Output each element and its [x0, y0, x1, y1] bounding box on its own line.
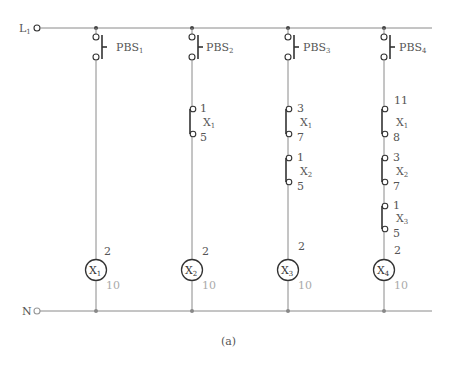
- pushbutton-pbs2: PBS2: [189, 34, 234, 60]
- coil-x3: X3: [278, 260, 299, 281]
- coil-x1: X1: [86, 260, 107, 281]
- svg-text:1: 1: [393, 199, 400, 212]
- rung-1: PBS1 2 X1 10: [86, 26, 144, 313]
- rung-2: PBS2 1 X1 5 2 X2 10: [182, 26, 234, 313]
- pushbutton-pbs4: PBS4: [381, 34, 427, 60]
- rung-3: PBS3 3 X1 7 1 X2 5 2 X3 10: [278, 26, 331, 313]
- svg-text:X1: X1: [396, 116, 408, 130]
- coil-x4: X4: [374, 260, 395, 281]
- top-rail-label: L1: [19, 22, 31, 36]
- svg-text:7: 7: [393, 180, 400, 193]
- svg-text:5: 5: [200, 131, 207, 144]
- svg-text:2: 2: [298, 240, 305, 253]
- svg-text:5: 5: [393, 227, 400, 240]
- top-rail: L1: [19, 22, 432, 36]
- contact-x1-rung4: X1 8: [382, 106, 408, 144]
- svg-text:X2: X2: [300, 165, 312, 179]
- contact-x2-rung4: 3 X2 7: [382, 151, 408, 193]
- rung-4: PBS4 11 X1 8 3 X2 7 1 X3 5: [374, 26, 428, 313]
- svg-text:10: 10: [202, 279, 216, 292]
- bottom-rail-terminal-icon: [34, 308, 40, 314]
- svg-text:X3: X3: [396, 212, 408, 226]
- svg-text:8: 8: [393, 131, 400, 144]
- svg-text:3: 3: [297, 102, 304, 115]
- pushbutton-label: PBS1: [116, 41, 144, 55]
- svg-text:X2: X2: [396, 165, 408, 179]
- svg-text:X1: X1: [203, 116, 215, 130]
- svg-text:PBS4: PBS4: [399, 41, 427, 55]
- pushbutton-pbs1: PBS1: [93, 34, 144, 60]
- contact-x1-rung2: 1 X1 5: [190, 102, 215, 144]
- contact-x1-rung3: 3 X1 7: [286, 102, 312, 144]
- svg-text:2: 2: [202, 245, 209, 258]
- bottom-rail-label: N: [22, 305, 32, 318]
- bottom-rail: N: [22, 305, 432, 318]
- figure-caption: (a): [221, 335, 236, 348]
- svg-text:PBS2: PBS2: [206, 41, 234, 55]
- contact-x3-rung4: 1 X3 5: [382, 199, 408, 240]
- svg-text:3: 3: [393, 151, 400, 164]
- contact-x2-rung3: 1 X2 5: [286, 151, 312, 193]
- svg-text:5: 5: [297, 180, 304, 193]
- coil-x2: X2: [182, 260, 203, 281]
- coil-bottom-terminal: 10: [106, 279, 120, 292]
- svg-text:1: 1: [297, 151, 304, 164]
- svg-text:2: 2: [394, 244, 401, 257]
- svg-text:10: 10: [394, 279, 408, 292]
- pushbutton-pbs3: PBS3: [285, 34, 331, 60]
- svg-text:10: 10: [298, 279, 312, 292]
- ladder-diagram: L1 N PBS1 2 X1 10: [0, 0, 453, 368]
- svg-text:PBS3: PBS3: [303, 41, 331, 55]
- coil-top-terminal: 2: [104, 245, 111, 258]
- top-rail-terminal-icon: [34, 25, 40, 31]
- svg-text:11: 11: [394, 94, 408, 107]
- svg-text:X1: X1: [300, 116, 312, 130]
- svg-text:1: 1: [200, 102, 207, 115]
- svg-text:7: 7: [297, 131, 304, 144]
